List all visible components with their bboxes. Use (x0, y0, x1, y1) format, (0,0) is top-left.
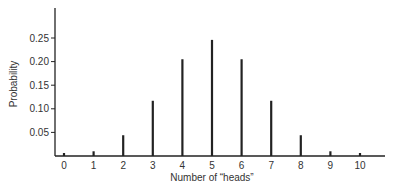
y-tick-label: 0.20 (30, 56, 50, 67)
x-tick-label: 8 (298, 160, 304, 171)
x-tick-label: 0 (61, 160, 67, 171)
x-tick-label: 1 (91, 160, 97, 171)
x-tick-label: 2 (120, 160, 126, 171)
x-tick-label: 9 (328, 160, 334, 171)
y-tick-label: 0.15 (30, 80, 50, 91)
x-tick-label: 5 (209, 160, 215, 171)
y-axis-title: Probability (8, 61, 19, 108)
x-tick-label: 10 (354, 160, 366, 171)
x-tick-label: 6 (239, 160, 245, 171)
x-tick-label: 4 (180, 160, 186, 171)
y-tick-label: 0.05 (30, 127, 50, 138)
x-axis-title: Number of “heads” (170, 172, 253, 183)
x-tick-label: 7 (268, 160, 274, 171)
y-tick-label: 0.25 (30, 33, 50, 44)
y-tick-label: 0.10 (30, 103, 50, 114)
probability-spike-chart: 0.050.100.150.200.25012345678910Number o… (0, 0, 401, 191)
x-tick-label: 3 (150, 160, 156, 171)
